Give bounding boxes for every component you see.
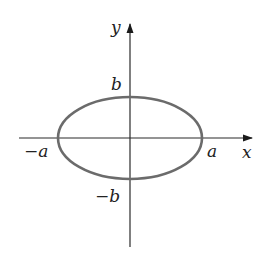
- label-neg-b: −b: [95, 186, 120, 206]
- x-axis-label: x: [242, 142, 252, 162]
- y-axis-label: y: [110, 17, 121, 37]
- ellipse-diagram: y x b −b −a a: [0, 0, 265, 253]
- label-pos-a: a: [207, 141, 217, 161]
- label-pos-b: b: [111, 74, 122, 94]
- label-neg-a: −a: [24, 141, 48, 161]
